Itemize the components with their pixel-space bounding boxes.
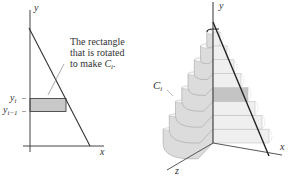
disk-cross-section	[213, 32, 220, 46]
label-yi-sub: i	[14, 97, 16, 105]
disk-label-leader	[167, 90, 173, 96]
disk-back-edge	[262, 115, 265, 129]
disk-back-edge	[255, 101, 258, 115]
disk-back-edge	[241, 74, 244, 88]
figure: y x yi yi−1 The rectangle that is rotate…	[0, 0, 289, 178]
disk-cross-section	[213, 60, 234, 74]
disk-label: Ci	[153, 79, 162, 93]
annotation-line-2: that is rotated	[70, 47, 124, 58]
left-panel: y x yi yi−1 The rectangle that is rotate…	[2, 2, 125, 157]
disk-back-edge	[269, 129, 272, 143]
x-axis-3d	[213, 143, 282, 155]
disk-stack	[163, 29, 272, 159]
annotation-line-3: to make Ci.	[70, 58, 116, 71]
z-axis-label-3d: z	[174, 165, 179, 176]
y-axis-label: y	[33, 2, 39, 13]
label-yi-1: yi−1	[2, 104, 18, 117]
right-panel: y x z Ci	[153, 0, 285, 176]
annotation-line-1: The rectangle	[70, 36, 125, 47]
x-axis-label: x	[99, 146, 105, 157]
disk-side	[201, 46, 214, 64]
label-yi: yi	[9, 92, 16, 105]
label-yi-1-sub: i−1	[7, 109, 17, 117]
y-axis-label-3d: y	[218, 0, 224, 11]
disk-cross-section	[213, 46, 227, 60]
x-axis-label-3d: x	[279, 141, 285, 152]
disk-back-edge	[248, 88, 251, 102]
rotated-rectangle	[30, 99, 66, 112]
